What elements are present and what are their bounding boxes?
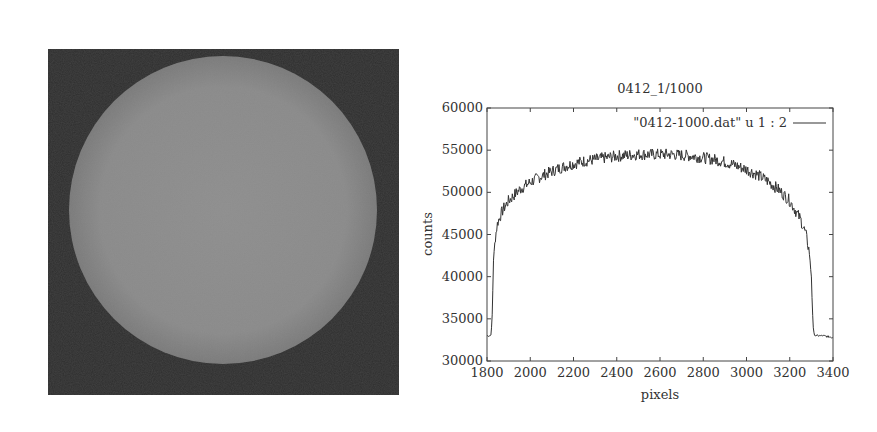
y-tick-label: 40000: [442, 269, 483, 284]
x-tick-label: 3400: [816, 365, 849, 380]
y-tick-label: 30000: [442, 353, 483, 368]
y-tick-label: 60000: [442, 100, 483, 115]
y-axis-label: counts: [420, 212, 435, 256]
x-tick-label: 3000: [730, 365, 763, 380]
y-tick-label: 35000: [442, 311, 483, 326]
chart-title: 0412_1/1000: [617, 81, 702, 96]
profile-chart: 0412_1/1000 1800200022002400260028003000…: [0, 0, 877, 432]
x-tick-label: 2200: [557, 365, 590, 380]
data-series-line: [487, 149, 833, 338]
legend: "0412-1000.dat" u 1 : 2: [633, 115, 826, 130]
y-tick-label: 50000: [442, 184, 483, 199]
chart-svg: 0412_1/1000 1800200022002400260028003000…: [0, 0, 877, 432]
y-tick-label: 45000: [442, 227, 483, 242]
x-tick-label: 2400: [600, 365, 633, 380]
plot-frame: [487, 108, 833, 361]
legend-label: "0412-1000.dat" u 1 : 2: [633, 115, 787, 130]
plot-axes: [487, 108, 833, 361]
x-axis-label: pixels: [641, 387, 679, 402]
x-tick-label: 2800: [687, 365, 720, 380]
x-tick-label: 2600: [643, 365, 676, 380]
x-tick-label: 2000: [514, 365, 547, 380]
x-tick-label: 3200: [773, 365, 806, 380]
y-tick-label: 55000: [442, 142, 483, 157]
axis-ticks: 1800200022002400260028003000320034003000…: [442, 100, 850, 380]
